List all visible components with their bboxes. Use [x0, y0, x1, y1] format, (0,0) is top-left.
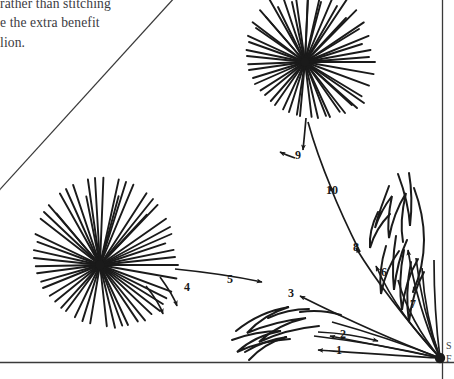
stage-label-9: 9 — [295, 148, 301, 162]
fireworks-diagram: 1 2 3 4 5 6 7 8 9 10 — [0, 0, 454, 379]
stage-label-2: 2 — [340, 327, 346, 341]
arc-stage-9 — [303, 118, 306, 150]
stage-label-1: 1 — [336, 343, 342, 357]
upper-burst-core — [301, 58, 310, 67]
stage-label-10: 10 — [326, 183, 338, 197]
stage-label-8: 8 — [353, 240, 359, 254]
book-page: rather than stitching e the extra benefi… — [0, 0, 454, 379]
lower-left-burst-core — [95, 260, 104, 269]
stage-label-4: 4 — [184, 280, 190, 294]
arc-stage-9b — [280, 152, 295, 158]
page-rules — [0, 0, 454, 379]
upper-burst — [247, 0, 376, 118]
arc-stage-4b — [146, 286, 163, 314]
bottom-flame-cluster — [232, 307, 341, 360]
stage-label-7: 7 — [410, 297, 416, 311]
edge-caption-bottom: F — [446, 353, 454, 364]
stage-label-3: 3 — [288, 286, 294, 300]
diagonal-rule — [0, 0, 176, 196]
arc-stage-10b — [308, 122, 332, 190]
stage-label-5: 5 — [227, 272, 233, 286]
launch-point — [435, 353, 445, 363]
lower-left-burst — [34, 178, 178, 328]
stage-labels: 1 2 3 4 5 6 7 8 9 10 — [184, 148, 416, 357]
stage-label-6: 6 — [381, 265, 387, 279]
edge-caption-top: S — [446, 340, 454, 351]
